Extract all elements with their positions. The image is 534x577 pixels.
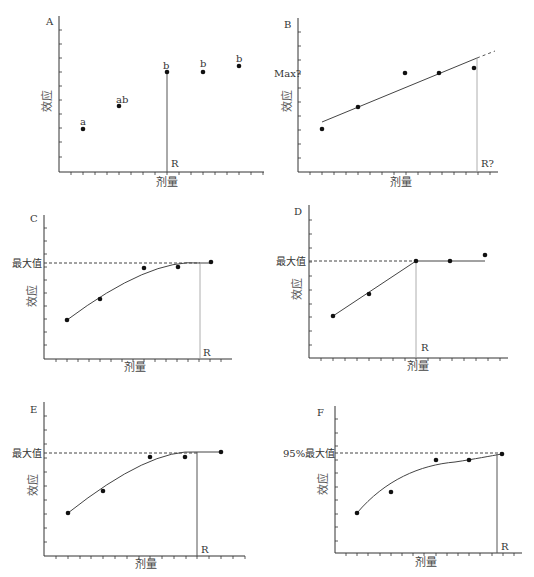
data-point xyxy=(66,511,71,516)
panel-f: F 95%最大值 R 效应 剂量 xyxy=(283,406,522,569)
panel-b-max-label: Max? xyxy=(274,68,301,79)
data-point xyxy=(356,105,361,110)
panel-c-y-label: 效应 xyxy=(25,285,39,307)
panel-c: C 最大值 R 效应 剂量 xyxy=(12,213,232,374)
panel-d-x-label: 剂量 xyxy=(407,359,429,373)
data-point xyxy=(414,259,419,264)
data-point xyxy=(448,259,453,264)
data-point xyxy=(467,458,472,463)
data-point xyxy=(101,489,106,494)
significance-label: b xyxy=(163,60,169,71)
panel-e-r-label: R xyxy=(201,544,209,555)
panel-b-y-label: 效应 xyxy=(280,90,294,112)
panel-b-x-label: 剂量 xyxy=(390,175,412,189)
data-point xyxy=(148,455,153,460)
panel-b: B R? Max? 效应 剂量 xyxy=(274,18,498,189)
panel-c-curve xyxy=(67,263,212,320)
panel-f-curve xyxy=(357,454,502,513)
panel-d-max-label: 最大值 xyxy=(276,255,306,267)
panel-a-y-label: 效应 xyxy=(40,90,54,112)
data-point xyxy=(81,127,86,132)
panel-f-y-label: 效应 xyxy=(316,473,330,495)
data-point xyxy=(65,318,70,323)
panel-f-max-label: 95%最大值 xyxy=(283,447,335,459)
panel-b-linear-fit xyxy=(322,58,477,122)
data-point xyxy=(389,490,394,495)
data-point xyxy=(355,511,360,516)
data-point xyxy=(437,71,442,76)
panel-f-r-label: R xyxy=(501,541,509,552)
dose-response-figure: A R a ab b b b xyxy=(0,0,534,577)
data-point xyxy=(237,64,242,69)
data-point xyxy=(219,450,224,455)
panel-a-title: A xyxy=(45,16,54,27)
panel-d-linear-plateau xyxy=(333,261,485,316)
panel-a: A R a ab b b b xyxy=(40,16,264,189)
panel-b-extrapolation xyxy=(477,51,495,58)
significance-label: a xyxy=(80,116,86,127)
panel-a-r-label: R xyxy=(171,158,179,169)
data-point xyxy=(500,452,505,457)
data-point xyxy=(209,260,214,265)
significance-label: ab xyxy=(116,94,128,105)
panel-c-r-label: R xyxy=(203,347,211,358)
data-point xyxy=(183,455,188,460)
data-point xyxy=(176,265,181,270)
panel-c-title: C xyxy=(30,213,38,224)
panel-e: E 最大值 R 效应 剂量 xyxy=(12,402,245,571)
panel-e-max-label: 最大值 xyxy=(12,447,42,459)
panel-c-max-label: 最大值 xyxy=(12,257,42,269)
data-point xyxy=(367,292,372,297)
significance-label: b xyxy=(236,53,242,64)
panel-e-title: E xyxy=(30,404,37,415)
data-point xyxy=(98,297,103,302)
data-point xyxy=(472,66,477,71)
data-point xyxy=(320,127,325,132)
data-point xyxy=(403,71,408,76)
data-point xyxy=(201,70,206,75)
panel-e-x-label: 剂量 xyxy=(135,557,157,571)
panel-b-title: B xyxy=(284,19,291,30)
panel-c-x-label: 剂量 xyxy=(124,360,146,374)
panel-a-x-label: 剂量 xyxy=(156,175,178,189)
panel-f-x-label: 剂量 xyxy=(415,555,437,569)
panel-f-title: F xyxy=(317,407,324,418)
panel-d-r-label: R xyxy=(421,342,429,353)
data-point xyxy=(483,253,488,258)
data-point xyxy=(434,458,439,463)
panel-e-curve xyxy=(68,452,221,513)
panel-d: D 最大值 R 效应 剂量 xyxy=(276,205,508,373)
data-point xyxy=(331,314,336,319)
significance-label: b xyxy=(200,58,206,69)
panel-d-title: D xyxy=(294,206,302,217)
panel-e-y-label: 效应 xyxy=(26,474,40,496)
panel-b-r-label: R? xyxy=(481,158,494,169)
data-point xyxy=(142,266,147,271)
panel-d-y-label: 效应 xyxy=(290,278,304,300)
